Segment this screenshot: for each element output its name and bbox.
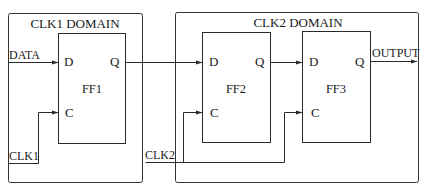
ff3-c-pin: C [311,105,320,120]
clk1-signal-label: CLK1 [9,149,39,163]
ff3-label: FF3 [326,82,346,96]
ff3-d-pin: D [309,54,318,69]
cdc-diagram: CLK1 DOMAIN CLK2 DOMAIN D Q FF1 C D Q FF… [0,0,425,189]
ff2-d-pin: D [209,54,218,69]
ff2-c-pin: C [210,105,219,120]
ff2-block: D Q FF2 C [203,33,271,143]
ff1-c-pin: C [65,105,74,120]
data-signal-label: DATA [9,48,40,62]
ff2-label: FF2 [226,82,246,96]
clk1-domain-title: CLK1 DOMAIN [30,16,120,31]
ff3-q-pin: Q [355,54,365,69]
clk2-to-ff2-wire [184,113,203,163]
ff1-d-pin: D [64,54,73,69]
ff2-q-pin: Q [255,54,265,69]
ff1-q-pin: Q [110,54,120,69]
ff3-block: D Q FF3 C [303,32,371,143]
clk2-domain-title: CLK2 DOMAIN [253,15,343,30]
clk2-signal-label: CLK2 [145,148,175,162]
output-signal-label: OUTPUT [372,46,420,60]
ff1-label: FF1 [82,82,102,96]
ff1-block: D Q FF1 C [59,34,126,144]
